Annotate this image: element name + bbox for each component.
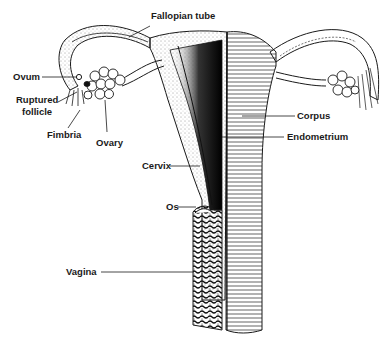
label-fallopian-tube: Fallopian tube	[151, 11, 215, 21]
anatomy-diagram	[0, 0, 392, 345]
label-corpus: Corpus	[297, 111, 330, 121]
left-ovary	[84, 67, 125, 99]
right-ovary	[328, 71, 359, 97]
vagina-section	[193, 206, 222, 330]
ovum-mark	[76, 74, 81, 79]
label-ruptured-line-1: Ruptured	[16, 95, 58, 105]
right-fallopian-tube	[270, 30, 379, 100]
label-os: Os	[166, 202, 179, 212]
ruptured-follicle-mark	[84, 82, 90, 87]
left-fimbria	[66, 88, 84, 106]
label-ruptured-follicle: Ruptured follicle	[16, 95, 58, 116]
label-fimbria: Fimbria	[47, 130, 81, 140]
label-endometrium: Endometrium	[287, 132, 348, 142]
label-vagina: Vagina	[66, 267, 97, 277]
label-ovum: Ovum	[13, 72, 40, 82]
label-cervix: Cervix	[142, 161, 171, 171]
label-ruptured-line-2: follicle	[16, 107, 58, 117]
uterus-section-right	[226, 32, 276, 333]
label-ovary: Ovary	[96, 138, 123, 148]
